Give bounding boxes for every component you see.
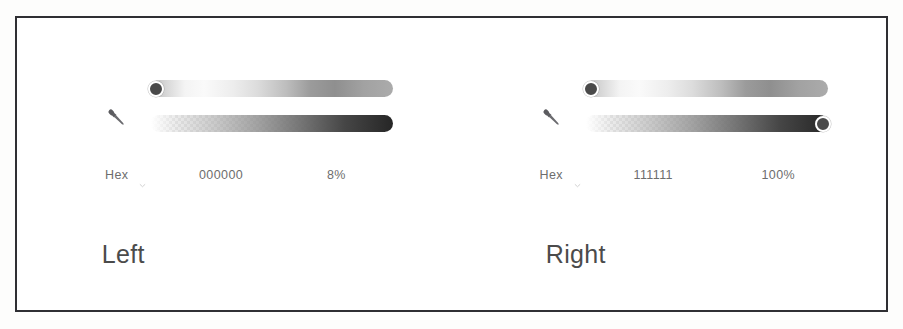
alpha-gradient-slider[interactable] bbox=[586, 115, 828, 132]
panel-caption-right: Right bbox=[452, 240, 887, 269]
color-slider-thumb[interactable] bbox=[148, 81, 164, 97]
color-gradient-bar bbox=[151, 80, 393, 97]
panel-left: Hex 000000 8% Left bbox=[17, 18, 452, 310]
hex-value-field[interactable]: 111111 bbox=[634, 168, 673, 182]
panel-right: Hex 111111 100% Right bbox=[452, 18, 887, 310]
alpha-gradient-slider[interactable] bbox=[151, 115, 393, 132]
panels-container: Hex 000000 8% Left bbox=[17, 18, 886, 310]
alpha-gradient-bar bbox=[586, 115, 828, 132]
alpha-slider-thumb[interactable] bbox=[815, 116, 831, 132]
chevron-down-icon[interactable] bbox=[574, 175, 581, 182]
eyedropper-icon[interactable] bbox=[103, 104, 133, 134]
color-gradient-slider[interactable] bbox=[586, 80, 828, 97]
values-row: Hex 000000 8% bbox=[87, 168, 393, 186]
panel-caption-left: Left bbox=[17, 240, 452, 269]
color-picker-left: Hex 000000 8% bbox=[87, 80, 397, 200]
slider-tracks bbox=[586, 80, 828, 132]
chevron-down-icon[interactable] bbox=[139, 175, 146, 182]
color-mode-label[interactable]: Hex bbox=[540, 168, 563, 182]
eyedropper-icon[interactable] bbox=[538, 104, 568, 134]
opacity-value-field[interactable]: 100% bbox=[762, 168, 796, 182]
color-gradient-bar bbox=[586, 80, 828, 97]
alpha-gradient-bar bbox=[151, 115, 393, 132]
color-slider-thumb[interactable] bbox=[583, 81, 599, 97]
comparison-frame: Hex 000000 8% Left bbox=[15, 16, 888, 312]
color-gradient-slider[interactable] bbox=[151, 80, 393, 97]
sliders-row bbox=[522, 80, 832, 158]
screenshot-root: Hex 000000 8% Left bbox=[0, 0, 903, 329]
color-mode-label[interactable]: Hex bbox=[105, 168, 128, 182]
color-picker-right: Hex 111111 100% bbox=[522, 80, 832, 200]
sliders-row bbox=[87, 80, 397, 158]
slider-tracks bbox=[151, 80, 393, 132]
values-row: Hex 111111 100% bbox=[522, 168, 828, 186]
hex-value-field[interactable]: 000000 bbox=[199, 168, 243, 182]
opacity-value-field[interactable]: 8% bbox=[327, 168, 346, 182]
